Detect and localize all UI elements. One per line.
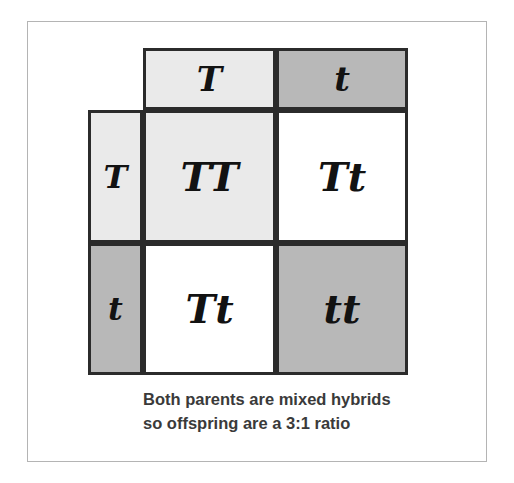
offspring-cell-tt: tt xyxy=(276,243,408,375)
diagram-caption: Both parents are mixed hybrids so offspr… xyxy=(143,388,443,436)
offspring-cell-Tt-top-right: Tt xyxy=(276,110,408,243)
offspring-cell-TT: TT xyxy=(143,110,276,243)
column-header-allele-1: T xyxy=(143,48,276,110)
caption-line-2: so offspring are a 3:1 ratio xyxy=(143,412,443,436)
row-header-allele-2: t xyxy=(88,243,143,375)
column-header-allele-2: t xyxy=(276,48,408,110)
caption-line-1: Both parents are mixed hybrids xyxy=(143,388,443,412)
row-header-allele-1: T xyxy=(88,110,143,243)
punnett-square-grid: T t T t TT Tt Tt tt xyxy=(88,48,408,375)
diagram-canvas: T t T t TT Tt Tt tt Both parents are mix… xyxy=(0,0,514,483)
offspring-cell-Tt-bottom-left: Tt xyxy=(143,243,276,375)
